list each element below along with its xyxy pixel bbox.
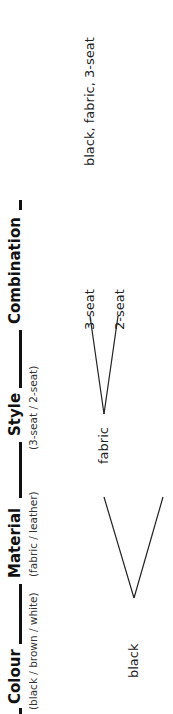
tree-diagram: Colour (black / brown / white) Material … — [0, 0, 173, 714]
branch-lines — [0, 0, 173, 714]
branch-fabric-to-3seat — [90, 316, 104, 414]
branch-fabric-to-2seat — [104, 316, 118, 414]
branch-black-to-fabric — [104, 497, 134, 598]
branch-black-to-leather — [134, 497, 163, 598]
